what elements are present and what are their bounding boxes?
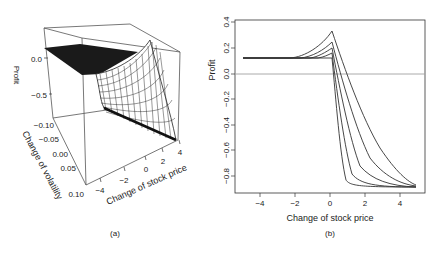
curve-4 [243, 42, 416, 186]
svg-text:0.4: 0.4 [222, 16, 231, 28]
y-tick-labels: 0.4 0.2 0.0 −0.2 −0.4 −0.6 −0.8 [222, 16, 231, 184]
svg-text:−2: −2 [290, 199, 300, 208]
x-tick-5: 4 [178, 148, 183, 157]
svg-text:−0.4: −0.4 [222, 117, 231, 133]
curve-3 [243, 48, 416, 187]
line-plot-panel-b: 0.4 0.2 0.0 −0.2 −0.4 −0.6 −0.8 Profit −… [207, 16, 425, 238]
svg-text:−0.6: −0.6 [222, 142, 231, 158]
y-tick-3: 0.00 [52, 150, 68, 159]
x-tick-3: 0 [144, 165, 149, 174]
z-tick-neg05: −0.5 [31, 91, 47, 100]
svg-text:0.0: 0.0 [222, 68, 231, 80]
curve-1 [243, 58, 416, 187]
y-tick-1: −0.10 [34, 121, 55, 130]
z-axis-ticks [44, 58, 52, 94]
y-tick-5: 0.10 [68, 190, 84, 199]
svg-text:−4: −4 [255, 199, 265, 208]
caption-a: (a) [110, 229, 120, 238]
y-axis-ticks [231, 22, 235, 176]
x-tick-labels: −4 −2 0 2 4 [255, 199, 402, 208]
profit-curves [243, 31, 416, 187]
caption-b: (b) [325, 229, 335, 238]
svg-text:−0.2: −0.2 [222, 91, 231, 107]
plot-frame [235, 20, 425, 193]
x-tick-4: 2 [161, 157, 166, 166]
svg-text:2: 2 [363, 199, 368, 208]
y-tick-4: 0.05 [60, 164, 76, 173]
surface-plot-panel-a: 0.0 −0.5 Profit −0.10 −0.05 0.00 0.05 0.… [12, 24, 188, 238]
svg-text:−0.8: −0.8 [222, 168, 231, 184]
svg-text:0.2: 0.2 [222, 42, 231, 54]
svg-text:4: 4 [398, 199, 403, 208]
x-axis-label: Change of stock price [286, 213, 373, 223]
svg-text:0: 0 [328, 199, 333, 208]
z-axis-label: Profit [12, 66, 21, 85]
curve-2 [243, 53, 416, 187]
y-axis-label: Profit [207, 59, 217, 81]
figure: 0.0 −0.5 Profit −0.10 −0.05 0.00 0.05 0.… [0, 0, 437, 253]
z-tick-0: 0.0 [31, 55, 43, 64]
x-axis-ticks [260, 193, 400, 197]
y-tick-2: −0.05 [39, 135, 60, 144]
x-tick-1: −4 [95, 186, 105, 195]
x-tick-2: −2 [119, 176, 129, 185]
